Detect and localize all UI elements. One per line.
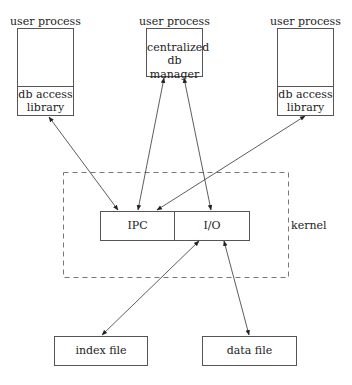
data-file-label: data file bbox=[203, 344, 296, 358]
mgr-line1: centralized bbox=[147, 41, 202, 55]
arrow-io-data bbox=[224, 241, 249, 335]
data-file-box: data file bbox=[202, 336, 297, 366]
lib-line2: library bbox=[278, 101, 333, 115]
index-file-box: index file bbox=[54, 336, 148, 366]
arrow-manager-ipc bbox=[138, 78, 164, 210]
index-file-label: index file bbox=[55, 344, 147, 358]
user-process-right: db access library bbox=[277, 28, 334, 116]
arrow-left-lib-ipc bbox=[49, 117, 118, 210]
user-process-left: db access library bbox=[17, 28, 74, 116]
user-process-middle: centralized db manager bbox=[146, 28, 203, 77]
io-box: I/O bbox=[174, 211, 250, 241]
process-label-left: user process bbox=[10, 15, 80, 28]
lib-line1: db access bbox=[18, 88, 73, 102]
mgr-line2: db manager bbox=[147, 54, 202, 82]
process-label-right: user process bbox=[270, 15, 340, 28]
ipc-label: IPC bbox=[101, 219, 174, 233]
ipc-box: IPC bbox=[100, 211, 175, 241]
process-label-middle: user process bbox=[139, 15, 209, 28]
kernel-label: kernel bbox=[291, 219, 327, 232]
arrow-right-lib-ipc bbox=[157, 116, 305, 210]
lib-line2: library bbox=[18, 101, 73, 115]
lib-line1: db access bbox=[278, 88, 333, 102]
io-label: I/O bbox=[175, 219, 249, 233]
arrow-io-index bbox=[102, 241, 199, 335]
